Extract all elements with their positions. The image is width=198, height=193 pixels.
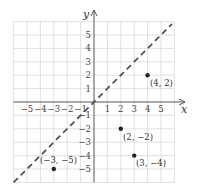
point-2-neg2 xyxy=(119,127,123,131)
y-tick: −3 xyxy=(78,137,91,147)
y-tick: −4 xyxy=(78,151,91,161)
x-tick: 2 xyxy=(118,104,123,114)
point-4-2 xyxy=(145,73,149,77)
coordinate-plane: x y −5 −4 −3 −2 −1 1 2 3 4 5 5 4 3 2 1 −… xyxy=(0,0,198,193)
x-tick: 4 xyxy=(145,104,150,114)
y-axis-label: y xyxy=(82,8,90,21)
x-tick: 1 xyxy=(105,104,110,114)
point-label: (3, −4) xyxy=(136,158,166,168)
x-tick: −3 xyxy=(48,104,61,114)
x-tick: 3 xyxy=(131,104,136,114)
y-tick: 5 xyxy=(86,30,91,40)
point-label: (−3, −5) xyxy=(40,155,77,165)
y-tick: 1 xyxy=(86,84,91,94)
x-tick: −4 xyxy=(34,104,47,114)
y-tick: −2 xyxy=(78,124,91,134)
point-label: (2, −2) xyxy=(123,132,153,142)
point-label: (4, 2) xyxy=(150,78,173,88)
point-neg3-neg5 xyxy=(52,167,56,171)
y-tick: 3 xyxy=(86,57,91,67)
x-axis-label: x xyxy=(181,103,188,116)
x-tick: 5 xyxy=(158,104,163,114)
point-labels: (4, 2) (2, −2) (3, −4) (−3, −5) xyxy=(40,78,173,168)
y-tick: 4 xyxy=(86,43,91,53)
x-tick: −2 xyxy=(61,104,74,114)
x-tick: −5 xyxy=(21,104,34,114)
y-tick: −5 xyxy=(78,164,91,174)
y-tick: 2 xyxy=(86,70,91,80)
x-tick-labels: −5 −4 −3 −2 −1 1 2 3 4 5 xyxy=(21,104,164,114)
